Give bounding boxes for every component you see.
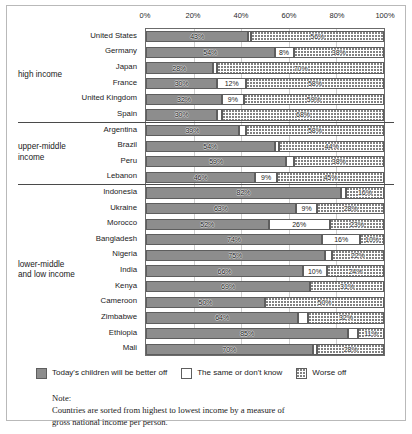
legend-item-better[interactable]: Today's children will be better off: [36, 368, 167, 379]
legend-item-worse[interactable]: Worse off: [296, 368, 346, 379]
bar-segment-same[interactable]: 8%: [275, 47, 294, 58]
bar-segment-same[interactable]: 12%: [217, 78, 246, 89]
bar-segment-same[interactable]: [286, 156, 293, 167]
bar-segment-worse[interactable]: 38%: [294, 156, 384, 167]
category-label-nigeria: Nigeria: [112, 250, 137, 258]
bar-segment-worse[interactable]: 58%: [246, 125, 384, 136]
bar-segment-worse[interactable]: 44%: [279, 141, 384, 152]
bar-segment-worse[interactable]: 56%: [251, 31, 384, 42]
bar-segment-better[interactable]: 43%: [146, 31, 248, 42]
category-label-lebanon: Lebanon: [107, 172, 137, 180]
bar-segment-worse[interactable]: 32%: [308, 312, 384, 323]
bar-segment-worse[interactable]: 68%: [222, 109, 384, 120]
bar-row[interactable]: 74%16%10%: [146, 234, 384, 245]
bar-segment-worse[interactable]: 11%: [358, 328, 384, 339]
bar-segment-better[interactable]: 46%: [146, 172, 255, 183]
bar-segment-same[interactable]: 16%: [322, 234, 360, 245]
legend-item-same[interactable]: The same or don't know: [181, 368, 282, 379]
bar-segment-better[interactable]: 28%: [146, 62, 213, 73]
bar-row[interactable]: 69%31%: [146, 281, 384, 292]
bar-segment-label: 39%: [185, 127, 199, 134]
note-line: gross national income per person.: [52, 416, 382, 428]
bar-segment-label: 32%: [339, 314, 353, 321]
bar-row[interactable]: 30%68%: [146, 109, 384, 120]
x-axis-tick: 0%: [140, 11, 151, 20]
bar-segment-worse[interactable]: 24%: [327, 265, 384, 276]
bar-segment-label: 9%: [302, 205, 312, 212]
bar-row[interactable]: 59%38%: [146, 156, 384, 167]
bar-row[interactable]: 28%70%: [146, 62, 384, 73]
x-axis-tick: 60%: [281, 11, 296, 20]
bar-segment-better[interactable]: 74%: [146, 234, 322, 245]
bar-segment-label: 38%: [332, 49, 346, 56]
legend-label: Worse off: [312, 369, 346, 377]
bar-segment-better[interactable]: 63%: [146, 203, 296, 214]
bar-segment-worse[interactable]: 38%: [294, 47, 384, 58]
bar-segment-worse[interactable]: 45%: [277, 172, 384, 183]
bar-segment-worse[interactable]: 22%: [332, 250, 384, 261]
bar-segment-better[interactable]: 82%: [146, 187, 341, 198]
bar-row[interactable]: 66%10%24%: [146, 265, 384, 276]
bar-row[interactable]: 39%58%: [146, 125, 384, 136]
bar-segment-better[interactable]: 75%: [146, 250, 325, 261]
bar-segment-better[interactable]: 30%: [146, 78, 217, 89]
group-label-line: upper-middle: [18, 142, 66, 153]
bar-segment-same[interactable]: 10%: [303, 265, 327, 276]
bar-segment-same[interactable]: 26%: [269, 219, 330, 230]
bar-row[interactable]: 85%11%: [146, 328, 384, 339]
bar-segment-worse[interactable]: 28%: [317, 344, 384, 355]
bar-segment-same[interactable]: [325, 250, 332, 261]
bar-segment-worse[interactable]: 31%: [310, 281, 384, 292]
category-label-brazil: Brazil: [118, 141, 138, 149]
bar-segment-worse[interactable]: 16%: [346, 187, 384, 198]
bar-segment-better[interactable]: 32%: [146, 94, 222, 105]
bar-row[interactable]: 50%50%: [146, 297, 384, 308]
bar-segment-same[interactable]: [298, 312, 308, 323]
bar-segment-better[interactable]: 59%: [146, 156, 286, 167]
bar-segment-better[interactable]: 39%: [146, 125, 239, 136]
group-label-high-income: high income: [18, 70, 62, 81]
bar-row[interactable]: 43%56%: [146, 31, 384, 42]
bar-segment-worse[interactable]: 70%: [217, 62, 384, 73]
bar-segment-same[interactable]: 9%: [255, 172, 276, 183]
bar-row[interactable]: 32%9%59%: [146, 94, 384, 105]
bar-segment-label: 8%: [279, 49, 289, 56]
bar-row[interactable]: 70%28%: [146, 344, 384, 355]
bar-segment-worse[interactable]: 23%: [330, 219, 384, 230]
bar-row[interactable]: 64%32%: [146, 312, 384, 323]
bar-row[interactable]: 30%12%58%: [146, 78, 384, 89]
bar-segment-label: 82%: [237, 189, 251, 196]
bar-segment-better[interactable]: 54%: [146, 47, 275, 58]
bar-segment-same[interactable]: 9%: [222, 94, 243, 105]
bar-segment-better[interactable]: 66%: [146, 265, 303, 276]
bar-segment-better[interactable]: 52%: [146, 219, 269, 230]
bar-segment-same[interactable]: [239, 125, 246, 136]
bar-segment-better[interactable]: 54%: [146, 141, 275, 152]
bar-row[interactable]: 75%22%: [146, 250, 384, 261]
bar-segment-worse[interactable]: 58%: [246, 78, 384, 89]
bar-row[interactable]: 46%9%45%: [146, 172, 384, 183]
bar-row[interactable]: 54%44%: [146, 141, 384, 152]
x-axis-tick: 20%: [185, 11, 200, 20]
bar-segment-worse[interactable]: 50%: [265, 297, 384, 308]
bar-segment-same[interactable]: 9%: [296, 203, 317, 214]
bar-row[interactable]: 63%9%28%: [146, 203, 384, 214]
bar-segment-same[interactable]: [348, 328, 358, 339]
bar-segment-worse[interactable]: 10%: [360, 234, 384, 245]
bar-segment-better[interactable]: 50%: [146, 297, 265, 308]
bar-segment-better[interactable]: 70%: [146, 344, 313, 355]
bar-row[interactable]: 54%8%38%: [146, 47, 384, 58]
bar-segment-worse[interactable]: 28%: [317, 203, 384, 214]
plot-area: 43%56%54%8%38%28%70%30%12%58%32%9%59%30%…: [145, 28, 385, 356]
bar-segment-label: 54%: [203, 49, 217, 56]
bar-segment-better[interactable]: 69%: [146, 281, 310, 292]
bar-row[interactable]: 82%16%: [146, 187, 384, 198]
x-axis-ticks: 0%20%40%60%80%100%: [145, 11, 385, 23]
bar-segment-better[interactable]: 85%: [146, 328, 348, 339]
bar-segment-label: 12%: [225, 80, 239, 87]
bar-segment-better[interactable]: 30%: [146, 109, 217, 120]
category-label-mali: Mali: [123, 344, 137, 352]
bar-segment-worse[interactable]: 59%: [244, 94, 384, 105]
bar-row[interactable]: 52%26%23%: [146, 219, 384, 230]
bar-segment-better[interactable]: 64%: [146, 312, 298, 323]
